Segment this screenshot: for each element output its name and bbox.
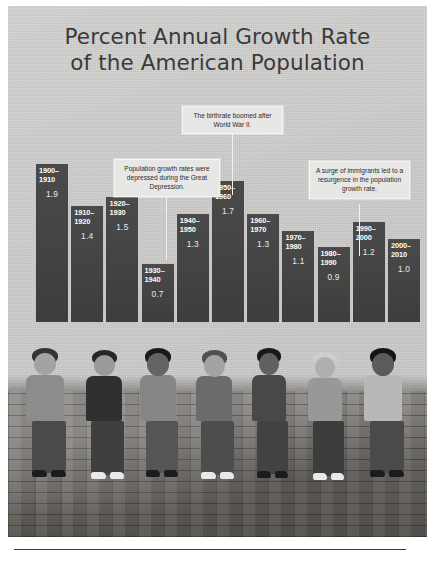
person-legs <box>201 421 234 475</box>
bar-1930-1940: 1930–19400.7 <box>142 264 174 322</box>
person-6 <box>304 351 346 421</box>
person-torso <box>140 375 176 421</box>
person-shoe-right <box>220 472 235 479</box>
person-shoe-left <box>146 470 160 477</box>
person-shoe-left <box>91 472 106 479</box>
bar-period-label: 1970–1980 <box>282 231 314 251</box>
person-shoe-left <box>313 473 327 480</box>
bar-value-label: 1.7 <box>212 201 244 216</box>
person-head <box>372 353 394 376</box>
bar-value-label: 1.5 <box>106 217 138 232</box>
person-2 <box>82 349 126 421</box>
person-4 <box>192 349 236 421</box>
person-torso <box>364 375 402 421</box>
bar-period-label: 2000–2010 <box>388 239 420 259</box>
callout-connector-great-depression <box>166 194 167 260</box>
person-legs <box>91 421 124 475</box>
callout-world-war-ii: The birthrate boomed after World War II. <box>182 106 283 134</box>
bar-period-label: 1960–1970 <box>247 214 279 234</box>
person-shoe-right <box>51 470 66 477</box>
person-1 <box>22 347 68 421</box>
page-title: Percent Annual Growth Rate of the Americ… <box>8 24 427 76</box>
bar-value-label: 1.0 <box>388 259 420 274</box>
bar-value-label: 1.3 <box>177 234 209 249</box>
person-head <box>204 355 225 377</box>
person-shoe-right <box>275 471 289 478</box>
person-legs <box>370 421 404 473</box>
person-shoe-left <box>201 472 216 479</box>
person-shoe-left <box>32 470 47 477</box>
bar-period-label: 1980–1990 <box>318 247 350 267</box>
person-torso <box>26 375 64 421</box>
bar-value-label: 1.9 <box>36 184 68 199</box>
bar-1970-1980: 1970–19801.1 <box>282 231 314 322</box>
person-shoe-right <box>110 472 125 479</box>
bar-period-label: 1900–1910 <box>36 164 68 184</box>
person-legs <box>257 421 288 474</box>
bar-1980-1990: 1980–19900.9 <box>318 247 350 322</box>
callout-connector-immigration <box>359 204 360 256</box>
person-shoe-left <box>257 471 271 478</box>
person-head <box>147 353 169 376</box>
bar-1990-2000: 1990–20001.2 <box>353 222 385 322</box>
callout-connector-world-war-ii <box>232 133 233 195</box>
bar-1910-1920: 1910–19201.4 <box>71 206 103 322</box>
person-legs <box>32 421 66 473</box>
bar-period-label: 1910–1920 <box>71 206 103 226</box>
person-head <box>315 357 335 378</box>
footer-rule <box>14 549 406 550</box>
title-line-2: of the American Population <box>8 50 427 76</box>
person-shoe-left <box>370 470 385 477</box>
bar-1960-1970: 1960–19701.3 <box>247 214 279 322</box>
bar-value-label: 0.7 <box>142 284 174 299</box>
person-head <box>259 353 279 375</box>
title-line-1: Percent Annual Growth Rate <box>65 24 371 49</box>
bar-1950-1960: 1950–19601.7 <box>212 181 244 322</box>
photo-band <box>8 315 427 537</box>
bar-value-label: 1.4 <box>71 226 103 241</box>
callout-immigration: A surge of immigrants led to a resurgenc… <box>309 161 410 199</box>
bar-1940-1950: 1940–19501.3 <box>177 214 209 322</box>
bar-1920-1930: 1920–19301.5 <box>106 197 138 322</box>
bar-value-label: 1.3 <box>247 234 279 249</box>
person-7 <box>360 347 406 421</box>
person-legs <box>313 421 344 476</box>
bar-2000-2010: 2000–20101.0 <box>388 239 420 322</box>
person-torso <box>308 378 342 421</box>
person-shoe-right <box>164 470 178 477</box>
bar-period-label: 1920–1930 <box>106 197 138 217</box>
bar-value-label: 0.9 <box>318 267 350 282</box>
bar-period-label: 1930–1940 <box>142 264 174 284</box>
poster-panel: Percent Annual Growth Rate of the Americ… <box>8 6 427 537</box>
callout-great-depression: Population growth rates were depressed d… <box>114 159 220 197</box>
person-shoe-right <box>331 473 345 480</box>
bar-value-label: 1.2 <box>353 242 385 257</box>
person-3 <box>136 347 180 421</box>
person-head <box>94 355 115 376</box>
person-legs <box>146 421 178 473</box>
person-shoe-right <box>389 470 404 477</box>
infographic-poster: Percent Annual Growth Rate of the Americ… <box>0 0 433 561</box>
person-head <box>34 353 56 375</box>
bar-value-label: 1.1 <box>282 251 314 266</box>
person-torso <box>196 376 232 421</box>
person-5 <box>248 347 290 421</box>
person-torso <box>86 376 122 421</box>
person-torso <box>252 375 286 421</box>
bar-period-label: 1940–1950 <box>177 214 209 234</box>
bar-1900-1910: 1900–19101.9 <box>36 164 68 322</box>
bar-period-label: 1990–2000 <box>353 222 385 242</box>
